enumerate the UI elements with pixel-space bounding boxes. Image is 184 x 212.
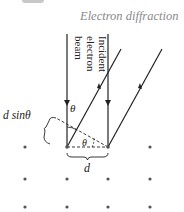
spacing-brace	[67, 153, 108, 160]
path-difference-label: d sinθ	[3, 109, 31, 121]
svg-text:electron: electron	[85, 36, 97, 72]
path-difference-brace	[44, 117, 56, 144]
atom	[106, 177, 109, 180]
atom	[23, 177, 26, 180]
atom	[65, 205, 68, 208]
atom	[106, 145, 110, 149]
atom	[23, 145, 26, 148]
beam-label: Incident electron beam	[73, 36, 109, 72]
atom	[148, 205, 151, 208]
atom	[106, 205, 109, 208]
electron-diffraction-diagram: Incident electron beam θ θ d sinθ d	[0, 0, 184, 212]
theta-label-top: θ	[70, 102, 76, 114]
svg-text:Incident: Incident	[97, 36, 109, 72]
crystal-lattice	[23, 145, 151, 208]
theta-label-bottom: θ	[82, 137, 87, 148]
svg-text:beam: beam	[73, 36, 85, 60]
atom	[65, 145, 69, 149]
spacing-label: d	[84, 161, 91, 175]
atom	[23, 205, 26, 208]
atom	[148, 145, 151, 148]
atom	[65, 177, 68, 180]
atom	[148, 177, 151, 180]
